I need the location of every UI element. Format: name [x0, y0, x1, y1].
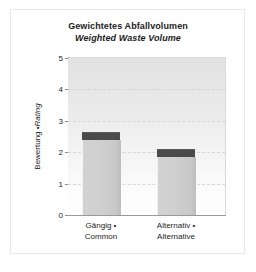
- x-tick-label-2: Alternativ •Alternative: [131, 220, 221, 242]
- bar-1-body: [82, 140, 121, 215]
- bar-2-body: [157, 157, 196, 215]
- bar-1-cap: [82, 132, 120, 139]
- y-tick-mark-3: [65, 121, 68, 122]
- y-tick-label-5: 5: [59, 54, 63, 63]
- x-tick-label-2-line1: Alternativ •: [131, 220, 221, 231]
- y-axis-label-english: Rating: [33, 103, 42, 126]
- bar-1[interactable]: [82, 133, 120, 215]
- y-tick-mark-0: [65, 215, 68, 216]
- y-tick-label-3: 3: [59, 116, 63, 125]
- y-axis-label-german: Bewertung •: [33, 126, 42, 169]
- x-axis-spine: [68, 215, 226, 216]
- y-tick-mark-1: [65, 184, 68, 185]
- chart-subtitle-english: Weighted Waste Volume: [0, 32, 256, 44]
- chart-figure: Gewichtetes Abfallvolumen Weighted Waste…: [0, 0, 256, 272]
- y-tick-mark-2: [65, 152, 68, 153]
- chart-title-german: Gewichtetes Abfallvolumen: [0, 20, 256, 32]
- bar-2-cap: [157, 149, 195, 157]
- y-tick-mark-4: [65, 89, 68, 90]
- y-tick-label-1: 1: [59, 179, 63, 188]
- y-tick-label-0: 0: [59, 211, 63, 220]
- y-tick-mark-5: [65, 58, 68, 59]
- y-tick-label-2: 2: [59, 148, 63, 157]
- chart-title-block: Gewichtetes Abfallvolumen Weighted Waste…: [0, 20, 256, 44]
- x-tick-label-2-line2: Alternative: [131, 231, 221, 242]
- gridline-4: [68, 89, 225, 91]
- bar-2[interactable]: [157, 150, 195, 215]
- y-axis-label: Bewertung • Rating: [30, 58, 44, 215]
- gridline-3: [68, 121, 225, 123]
- plot-area: 012345: [68, 58, 226, 215]
- y-tick-label-4: 4: [59, 85, 63, 94]
